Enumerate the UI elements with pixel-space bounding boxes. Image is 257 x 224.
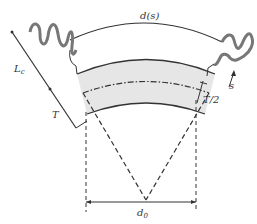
contour-mid-marker	[49, 88, 52, 91]
arc-length-label: d(s)	[140, 10, 159, 21]
contour-length-line	[12, 32, 76, 128]
polymer-wave-right	[214, 34, 253, 65]
arrowhead-left	[86, 200, 91, 204]
polymer-wave-left	[30, 24, 76, 54]
radial-line-right	[146, 93, 209, 200]
half-thickness-label: T/2	[203, 94, 219, 105]
arc-coordinate-label: s	[229, 80, 234, 91]
contour-start-marker	[11, 31, 14, 34]
contour-length-label: Lc	[13, 63, 25, 76]
arrowhead-right	[191, 200, 196, 204]
bent-beam-diagram: d0 d(s) Lc T T/2 s	[0, 0, 257, 224]
contour-end-tick	[76, 121, 87, 128]
arc-coordinate-arrowhead	[231, 70, 236, 76]
arc-length-curve	[70, 23, 222, 42]
radial-line-left	[83, 93, 146, 200]
thickness-label: T	[52, 109, 60, 120]
curved-band	[77, 60, 215, 115]
base-distance-label: d0	[137, 207, 148, 220]
